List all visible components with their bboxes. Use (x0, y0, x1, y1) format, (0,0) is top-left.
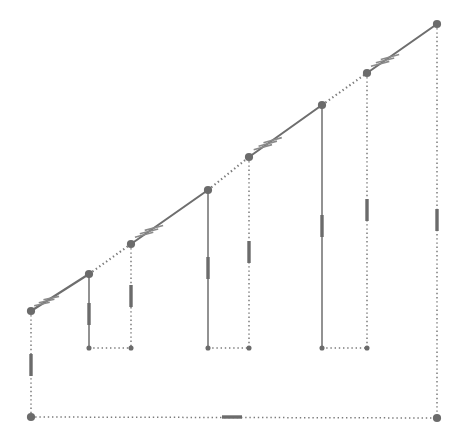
vertex-node-b6 (364, 345, 369, 350)
vertex-node-b3 (205, 345, 210, 350)
hatch-group-G (371, 54, 399, 66)
slope-segment-F-G (322, 73, 367, 105)
vertex-node-B (85, 270, 93, 278)
nodes-group (27, 20, 441, 422)
slope-segment-G-H (367, 24, 437, 73)
vertex-node-b5 (319, 345, 324, 350)
vertical-segments-group (31, 24, 437, 418)
vertex-node-b2 (128, 345, 133, 350)
vertex-node-E (245, 153, 253, 161)
figure-canvas (0, 0, 463, 447)
vertex-node-H (433, 20, 441, 28)
slope-segment-E-F (249, 105, 322, 157)
slope-segment-A-B (31, 274, 89, 311)
vertex-node-P (27, 413, 35, 421)
vertex-node-D (204, 186, 212, 194)
hatch-group-A (34, 296, 59, 305)
vertex-node-b1 (86, 345, 91, 350)
geometry-diagram (0, 0, 463, 447)
vertex-node-F (318, 101, 326, 109)
hatch-group-C (135, 225, 163, 237)
vertex-node-b4 (246, 345, 251, 350)
vertex-node-G (363, 69, 371, 77)
hatch-marks-group (34, 54, 399, 305)
segment-midpoint-marks-group (31, 199, 437, 417)
slope-segment-D-E (208, 157, 249, 190)
vertex-node-A (27, 307, 35, 315)
slope-segments-group (31, 24, 437, 311)
vertex-node-C (127, 240, 135, 248)
slope-segment-B-C (89, 244, 131, 274)
hatch-group-E (254, 138, 282, 150)
vertex-node-Q (433, 414, 441, 422)
